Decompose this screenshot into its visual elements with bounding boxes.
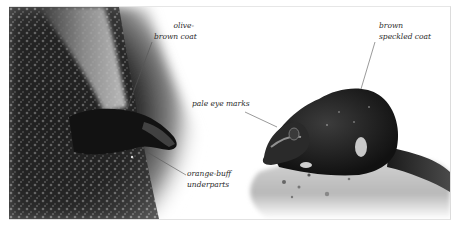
leader-pale-eye-marks xyxy=(245,112,277,127)
label-pale-eye-marks: pale eye marks xyxy=(192,99,250,110)
label-line: brown coat xyxy=(154,32,194,43)
label-orange-buff-underparts: orange-buff underparts xyxy=(187,169,231,190)
label-line: orange-buff xyxy=(187,169,231,180)
label-line: pale eye marks xyxy=(192,99,250,110)
label-line: olive- xyxy=(154,21,194,32)
label-line: speckled coat xyxy=(379,32,431,43)
leader-brown-speckled-coat xyxy=(361,42,375,89)
label-line: underparts xyxy=(187,180,231,191)
label-line: brown xyxy=(379,21,431,32)
label-olive-brown-coat: olive- brown coat xyxy=(154,21,194,42)
image-frame: olive- brown coat orange-buff underparts… xyxy=(9,6,451,220)
label-brown-speckled-coat: brown speckled coat xyxy=(379,21,431,42)
